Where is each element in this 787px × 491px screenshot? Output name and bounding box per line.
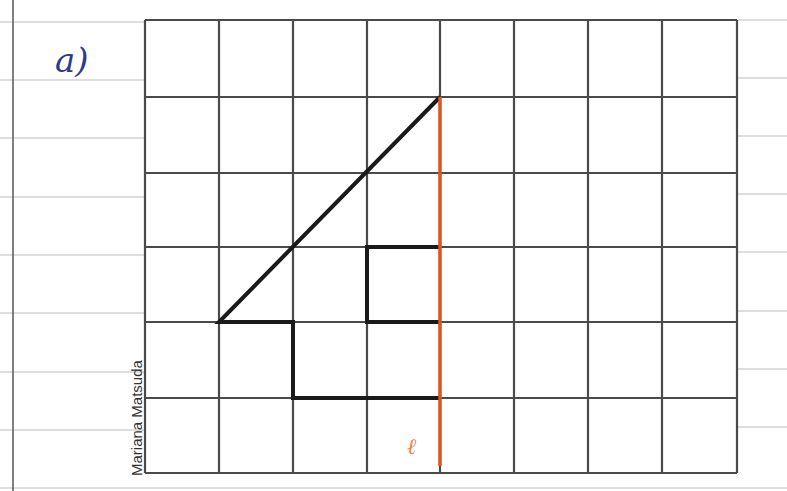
- item-label: a): [55, 40, 89, 80]
- figure-inner-notch: [367, 247, 440, 322]
- notebook-ruled-lines: [0, 20, 787, 488]
- notebook-page: [0, 0, 787, 491]
- symmetry-axis-label: ℓ: [407, 434, 416, 460]
- illustrator-credit: Mariana Matsuda: [128, 360, 145, 476]
